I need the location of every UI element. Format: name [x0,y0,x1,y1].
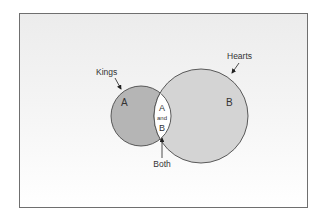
label-kings: Kings [96,67,117,77]
label-hearts: Hearts [227,51,252,61]
region-b-letter: B [226,97,233,108]
intersection-text-top: A [159,103,165,113]
region-a-letter: A [121,97,128,108]
venn-diagram: A B A and B Kings Hearts Both [0,0,326,219]
arrow-kings [115,78,121,89]
label-both: Both [153,159,171,169]
intersection-text-bottom: B [159,123,165,133]
arrow-hearts [232,63,239,73]
intersection-text-mid: and [157,115,167,121]
